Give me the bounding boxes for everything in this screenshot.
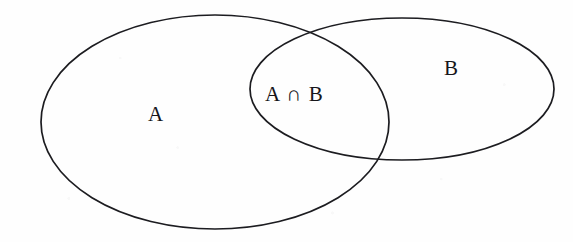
venn-diagram-figure: A A ∩ B B [0, 0, 573, 242]
intersection-label: A ∩ B [265, 84, 324, 105]
set-b-label: B [444, 58, 459, 79]
set-a-ellipse [41, 15, 389, 229]
venn-diagram-canvas [0, 0, 573, 242]
set-a-label: A [148, 104, 164, 125]
